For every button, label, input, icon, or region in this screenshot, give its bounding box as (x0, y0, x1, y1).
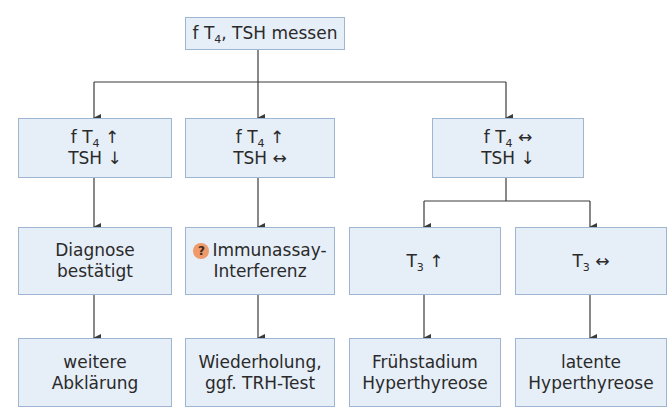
node-t3-normal: T3 ↔ (515, 227, 667, 295)
node-line2: Interferenz (213, 261, 306, 282)
subscript: 3 (583, 261, 590, 274)
arrow-left-right-icon: ↔ (518, 127, 532, 147)
node-line2: ggf. TRH-Test (205, 373, 315, 394)
root-label-suffix: , TSH messen (221, 23, 337, 43)
text: T (572, 251, 582, 271)
question-mark-icon: ? (193, 243, 209, 259)
node-line1: Diagnose (55, 240, 135, 261)
node-repeat-trh-test: Wiederholung, ggf. TRH-Test (185, 338, 335, 407)
node-line1: weitere (63, 352, 126, 373)
node-immunoassay-interference: ?Immunassay- Interferenz (185, 227, 335, 295)
arrow-up-icon: ↑ (429, 251, 443, 271)
root-label: f T4, TSH messen (193, 23, 338, 44)
arrow-up-icon: ↑ (105, 127, 119, 147)
node-line2: Abklärung (52, 373, 139, 394)
node-further-clarification: weitere Abklärung (18, 338, 172, 407)
node-line2: TSH ↔ (233, 148, 287, 169)
node-line1: f T4 ↔ (484, 127, 532, 148)
text: Immunassay- (212, 240, 326, 260)
node-line1: T3 ↔ (572, 251, 609, 272)
node-line1: latente (561, 352, 621, 373)
arrow-left-right-icon: ↔ (595, 251, 609, 271)
node-early-hyperthyroidism: Frühstadium Hyperthyreose (349, 338, 501, 407)
node-diagnosis-confirmed: Diagnose bestätigt (18, 227, 172, 295)
root-box-measure-ft4-tsh: f T4, TSH messen (185, 17, 345, 50)
node-line2: TSH ↓ (481, 148, 535, 169)
node-ft4-up-tsh-down: f T4 ↑ TSH ↓ (18, 118, 172, 178)
node-latent-hyperthyroidism: latente Hyperthyreose (515, 338, 667, 407)
node-line2: Hyperthyreose (362, 373, 487, 394)
subscript: 3 (417, 261, 424, 274)
root-label-prefix: f T (193, 23, 215, 43)
node-t3-up: T3 ↑ (349, 227, 501, 295)
node-ft4-normal-tsh-down: f T4 ↔ TSH ↓ (432, 118, 584, 178)
text: T (406, 251, 416, 271)
node-line2: bestätigt (57, 261, 133, 282)
node-line1: Wiederholung, (198, 352, 321, 373)
node-line1: f T4 ↑ (71, 127, 119, 148)
node-ft4-up-tsh-normal: f T4 ↑ TSH ↔ (185, 118, 335, 178)
text: f T (236, 127, 258, 147)
arrow-up-icon: ↑ (270, 127, 284, 147)
node-line1: f T4 ↑ (236, 127, 284, 148)
node-line1: Frühstadium (372, 352, 478, 373)
node-line2: Hyperthyreose (528, 373, 653, 394)
text: f T (71, 127, 93, 147)
node-line1: ?Immunassay- (193, 240, 326, 261)
text: f T (484, 127, 506, 147)
node-line2: TSH ↓ (68, 148, 122, 169)
node-line1: T3 ↑ (406, 251, 443, 272)
